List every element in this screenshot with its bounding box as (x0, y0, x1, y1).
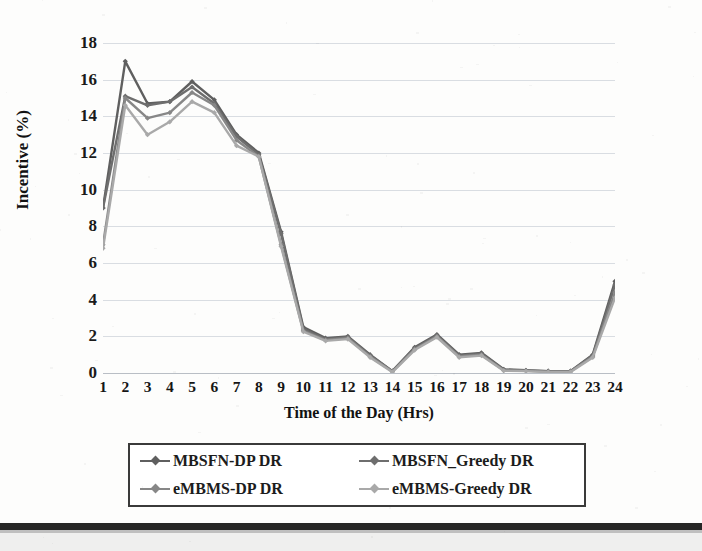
scan-speckle (654, 471, 656, 472)
scan-speckle (635, 507, 638, 509)
scan-speckle (102, 14, 105, 16)
x-tick-label-15: 15 (407, 378, 423, 396)
legend-label-1: MBSFN_Greedy DR (392, 453, 533, 469)
scan-speckle (52, 318, 54, 319)
legend-line-marker-icon (359, 455, 389, 467)
scan-artifact-bar (0, 523, 702, 530)
scan-speckle (626, 259, 628, 261)
scan-speckle (126, 133, 128, 134)
scan-speckle (483, 238, 486, 239)
scan-speckle (0, 229, 1, 231)
scan-speckle (432, 0, 433, 2)
scan-speckle (272, 318, 275, 319)
scan-speckle (448, 298, 451, 300)
y-tick-label-4: 4 (89, 290, 98, 310)
scan-speckle (453, 373, 455, 375)
scan-speckle (668, 6, 671, 8)
x-tick-label-3: 3 (144, 378, 152, 396)
scan-speckle (248, 150, 250, 151)
scan-speckle (6, 92, 7, 93)
scan-speckle (50, 367, 53, 369)
x-tick-label-5: 5 (188, 378, 196, 396)
x-tick-label-16: 16 (429, 378, 445, 396)
scan-speckle (60, 395, 63, 396)
scan-speckle (279, 312, 280, 313)
series-line (103, 102, 615, 372)
scan-speckle (142, 486, 143, 488)
y-tick-label-6: 6 (89, 253, 98, 273)
scan-speckle (154, 248, 157, 249)
legend-item-1[interactable]: MBSFN_Greedy DR (359, 453, 578, 469)
scan-speckle (420, 192, 423, 194)
y-tick-label-8: 8 (89, 216, 98, 236)
plot-area (103, 43, 615, 373)
scan-speckle (602, 276, 603, 278)
scan-speckle (413, 286, 415, 287)
scan-speckle (525, 427, 528, 429)
y-axis-title: Incentive (%) (13, 45, 33, 275)
scan-speckle (570, 242, 571, 243)
scan-speckle (617, 62, 618, 63)
series-2 (103, 90, 615, 373)
scan-speckle (529, 85, 532, 86)
scan-speckle (660, 424, 662, 426)
y-tick-label-18: 18 (80, 33, 97, 53)
x-tick-label-20: 20 (518, 378, 534, 396)
scan-speckle (30, 238, 31, 240)
scan-speckle (604, 445, 607, 447)
scan-speckle (358, 288, 361, 290)
scan-speckle (79, 173, 80, 174)
scan-speckle (642, 272, 645, 274)
scan-speckle (698, 358, 699, 360)
scan-speckle (612, 304, 613, 305)
legend-item-2[interactable]: eMBMS-DP DR (140, 481, 359, 497)
x-tick-label-2: 2 (121, 378, 129, 396)
x-tick-label-4: 4 (166, 378, 174, 396)
x-tick-label-23: 23 (585, 378, 601, 396)
scan-speckle (74, 153, 77, 155)
scan-speckle (346, 214, 349, 216)
legend-label-3: eMBMS-Greedy DR (392, 481, 532, 497)
legend-line-marker-icon (140, 483, 170, 495)
series-lines (103, 43, 615, 373)
scan-speckle (476, 64, 479, 65)
scan-speckle (519, 47, 520, 48)
scan-speckle (425, 417, 427, 418)
scan-speckle (536, 315, 537, 316)
x-tick-label-12: 12 (340, 378, 356, 396)
scan-speckle (268, 163, 271, 164)
scan-speckle (547, 424, 550, 425)
scan-speckle (401, 226, 402, 228)
x-tick-label-21: 21 (540, 378, 556, 396)
scan-speckle (442, 370, 443, 371)
legend-line-marker-icon (140, 455, 170, 467)
x-tick-label-8: 8 (255, 378, 263, 396)
series-0 (103, 59, 615, 373)
scan-speckle (651, 354, 652, 355)
series-1 (103, 84, 615, 373)
scan-speckle (470, 288, 473, 290)
scan-speckle (42, 0, 43, 1)
y-tick-label-14: 14 (80, 106, 97, 126)
scan-speckle (449, 499, 452, 500)
scan-speckle (95, 360, 98, 361)
scan-speckle (35, 186, 36, 187)
legend-item-3[interactable]: eMBMS-Greedy DR (359, 481, 578, 497)
scan-speckle (68, 119, 69, 121)
scan-speckle (460, 67, 463, 68)
scan-speckle (177, 159, 180, 160)
scan-speckle (25, 184, 26, 186)
legend-label-0: MBSFN-DP DR (173, 453, 282, 469)
x-tick-label-24: 24 (607, 378, 623, 396)
scan-speckle (482, 243, 484, 244)
scan-speckle (43, 537, 44, 538)
x-axis-title: Time of the Day (Hrs) (103, 404, 615, 422)
scan-speckle (286, 22, 287, 24)
series-line (103, 87, 615, 371)
scan-speckle (68, 214, 70, 216)
x-tick-label-13: 13 (362, 378, 378, 396)
x-tick-label-1: 1 (99, 378, 107, 396)
legend-item-0[interactable]: MBSFN-DP DR (140, 453, 359, 469)
x-tick-label-9: 9 (277, 378, 285, 396)
scan-speckle (504, 531, 505, 532)
